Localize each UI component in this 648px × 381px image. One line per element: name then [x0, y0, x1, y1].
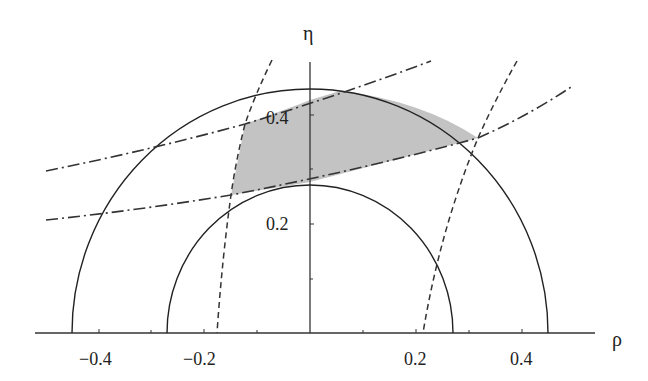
- right-dashed-curve: [423, 61, 517, 333]
- x-axis-label: ρ: [612, 328, 622, 351]
- shaded-allowed-region: [231, 91, 478, 195]
- y-axis-label: η: [303, 22, 313, 45]
- rho-eta-plot: −0.4 −0.2 0.2 0.4 0.2 0.4 ρ η: [0, 0, 648, 381]
- y-tick-label-0.4: 0.4: [266, 108, 289, 128]
- y-tick-label-0.2: 0.2: [266, 214, 289, 234]
- x-tick-label-neg-0.2: −0.2: [183, 349, 216, 369]
- x-tick-label-0.4: 0.4: [510, 349, 533, 369]
- x-tick-label-0.2: 0.2: [404, 349, 427, 369]
- x-tick-label-neg-0.4: −0.4: [79, 349, 112, 369]
